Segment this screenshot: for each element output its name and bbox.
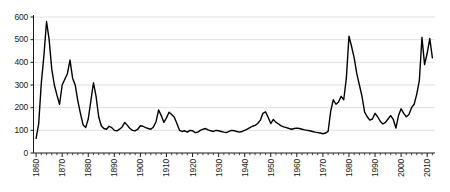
x-tick-label: 1880	[83, 159, 93, 177]
x-tick-label: 1930	[214, 159, 224, 177]
line-chart-plot	[0, 0, 450, 192]
x-tick-label: 1920	[188, 159, 198, 177]
x-tick-label: 1890	[109, 159, 119, 177]
y-tick-label: 200	[2, 103, 28, 112]
y-tick-label: 600	[2, 13, 28, 22]
x-tick-label: 1940	[240, 159, 250, 177]
x-tick-label: 1990	[370, 159, 380, 177]
x-tick-label: 1860	[31, 159, 41, 177]
y-tick-label: 500	[2, 35, 28, 44]
data-line	[36, 22, 432, 139]
x-tick-label: 1870	[57, 159, 67, 177]
chart-container: 0100200300400500600 18601870188018901900…	[0, 0, 450, 192]
x-tick-label: 1900	[135, 159, 145, 177]
data-series-group	[36, 22, 432, 139]
y-tick-label: 300	[2, 81, 28, 90]
y-tick-label: 400	[2, 58, 28, 67]
x-tick-label: 1950	[266, 159, 276, 177]
major-tick-group	[31, 17, 428, 157]
x-tick-label: 1980	[344, 159, 354, 177]
y-tick-label: 100	[2, 126, 28, 135]
x-tick-label: 2010	[422, 159, 432, 177]
x-tick-label: 1910	[161, 159, 171, 177]
x-tick-label: 2000	[396, 159, 406, 177]
x-tick-label: 1970	[318, 159, 328, 177]
y-tick-label: 0	[2, 149, 28, 158]
x-tick-label: 1960	[292, 159, 302, 177]
